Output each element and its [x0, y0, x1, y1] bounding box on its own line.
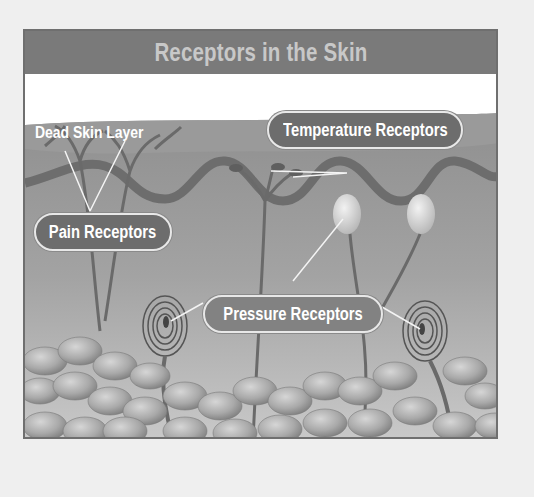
dead-skin-layer-label: Dead Skin Layer — [35, 123, 167, 143]
skin-diagram-panel: Receptors in the Skin — [23, 29, 498, 439]
pain-receptors-label: Pain Receptors — [34, 213, 172, 251]
pressure-receptors-label: Pressure Receptors — [203, 295, 383, 333]
temperature-receptors-label: Temperature Receptors — [267, 111, 463, 149]
